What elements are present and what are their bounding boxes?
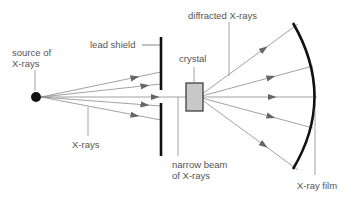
incident-rays — [41, 72, 189, 120]
crystal-label: crystal — [179, 53, 206, 64]
diffracted-rays — [198, 24, 317, 170]
xray-film — [293, 23, 315, 169]
source-label: source of X-rays — [12, 47, 51, 69]
diffracted-label: diffracted X-rays — [188, 10, 257, 21]
lead-shield-label: lead shield — [90, 39, 135, 50]
narrow-beam-label: narrow beam of X-rays — [172, 159, 227, 181]
xray-source-dot — [31, 92, 41, 102]
crystal — [186, 83, 203, 111]
film-label: X-ray film — [297, 180, 337, 191]
xrays-label: X-rays — [72, 139, 99, 150]
incident-arrows — [120, 77, 155, 115]
